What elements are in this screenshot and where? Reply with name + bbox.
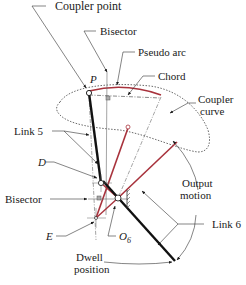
label-coupler-curve-1: Coupler <box>198 94 233 105</box>
label-point-d: D <box>38 157 46 168</box>
joint-o6 <box>115 195 121 201</box>
label-output-motion-1: Output <box>182 178 213 189</box>
label-coupler-point: Coupler point <box>55 1 121 12</box>
pseudo-arc <box>89 87 161 95</box>
joint-p <box>86 90 91 95</box>
label-output-motion-2: motion <box>180 190 211 201</box>
label-chord: Chord <box>158 71 186 82</box>
linkage-diagram: Coupler point Bisector Pseudo arc Chord … <box>0 0 246 285</box>
bisector-top-line <box>106 72 107 215</box>
joint-d <box>98 180 103 185</box>
label-dwell-2: position <box>74 264 109 275</box>
label-pseudo-arc: Pseudo arc <box>138 47 186 58</box>
link6-dwell-position <box>103 181 175 261</box>
label-point-e: E <box>46 231 53 242</box>
right-angle-mark-top <box>106 96 110 100</box>
coupler-curve <box>57 85 210 152</box>
right-angle-mark-left <box>97 196 101 200</box>
label-bisector-top: Bisector <box>100 26 137 37</box>
label-point-o6: O6 <box>119 231 131 243</box>
label-point-p: P <box>90 74 97 85</box>
label-link6: Link 6 <box>212 219 241 230</box>
label-coupler-curve-2: curve <box>200 106 224 117</box>
label-dwell-1: Dwell <box>76 252 103 263</box>
label-bisector-left: Bisector <box>5 194 42 205</box>
chord-line <box>89 95 161 98</box>
joint-e <box>95 217 98 220</box>
label-link5: Link 5 <box>14 126 43 137</box>
link6-upper-position <box>118 142 177 198</box>
